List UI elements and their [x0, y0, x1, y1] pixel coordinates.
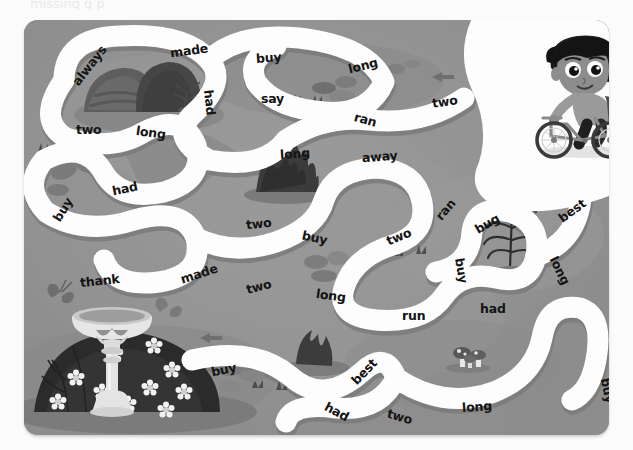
maze-word[interactable]: long — [462, 398, 493, 415]
maze-word[interactable]: two — [245, 215, 272, 233]
maze-board: alwaysmadebuylongsayhadrantwotwolonglong… — [24, 20, 609, 435]
page-title: missing g p — [30, 0, 430, 10]
maze-word[interactable]: say — [261, 91, 284, 106]
maze-word[interactable]: long — [280, 145, 311, 162]
worksheet-page: missing g p — [0, 0, 633, 450]
maze-word[interactable]: away — [362, 148, 398, 165]
boy-on-bicycle-illustration — [521, 32, 609, 164]
maze-word[interactable]: two — [76, 122, 102, 137]
maze-word[interactable]: run — [402, 308, 425, 323]
maze-word[interactable]: had — [480, 301, 506, 316]
maze-word[interactable]: had — [201, 89, 219, 116]
maze-word[interactable]: buy — [256, 49, 282, 66]
